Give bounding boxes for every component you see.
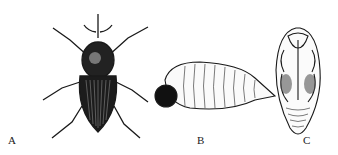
- pupa-icon: [276, 28, 320, 134]
- adult-weevil-icon: [43, 14, 148, 138]
- larva-icon: [155, 62, 275, 109]
- panel-label-c: C: [303, 134, 310, 146]
- panel-label-a: A: [8, 134, 16, 146]
- weevil-life-stages-illustration: [0, 0, 338, 155]
- panel-label-b: B: [197, 134, 204, 146]
- figure: A B C: [0, 0, 338, 155]
